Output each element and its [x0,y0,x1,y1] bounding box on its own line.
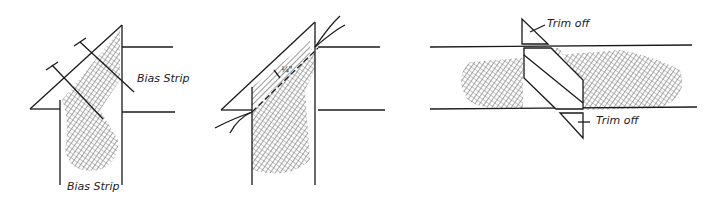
panel-trim-ends [430,19,697,138]
bias-strip-diagram [0,0,726,203]
panel-pin-strips [30,25,175,185]
trim-off-bottom-label: Trim off [596,114,638,127]
bias-strip-side-label: Bias Strip [137,72,189,85]
seam-allowance-label: ¼" [281,66,292,75]
bias-strip-bottom-label: Bias Strip [67,180,119,193]
trim-off-top-label: Trim off [547,17,589,30]
panel-stitch-seam [215,16,385,185]
